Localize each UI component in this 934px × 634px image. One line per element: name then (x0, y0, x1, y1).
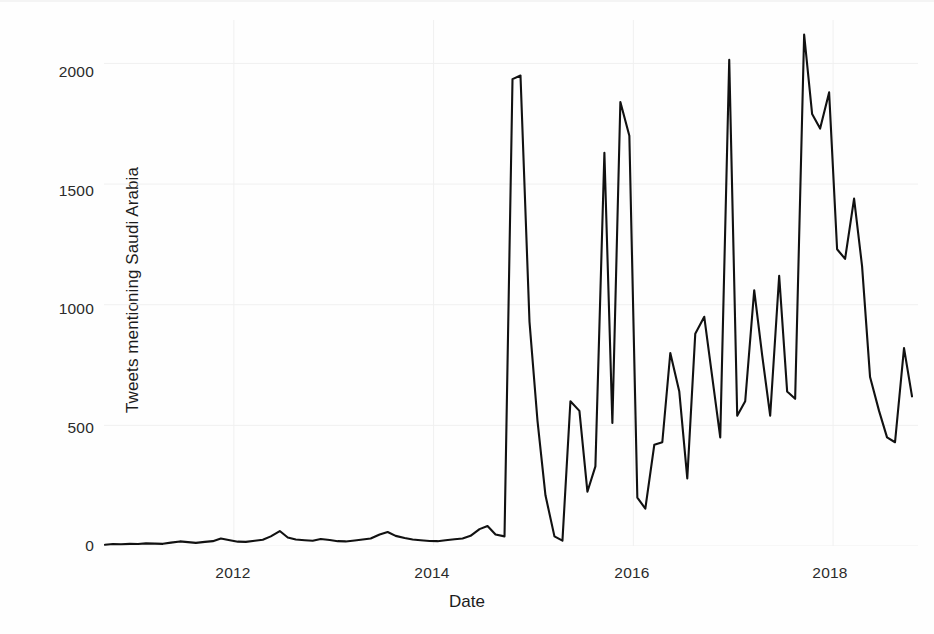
gridlines (104, 20, 918, 546)
chart-svg (104, 20, 918, 546)
y-axis-title-container: Tweets mentioning Saudi Arabia (12, 60, 40, 520)
x-tick-label-2018: 2018 (812, 564, 847, 582)
x-tick-label-2014: 2014 (414, 564, 449, 582)
data-line-group (105, 34, 912, 544)
y-tick-label-1500: 1500 (42, 182, 94, 200)
y-tick-label-500: 500 (42, 419, 94, 437)
series-line-tweets (105, 34, 912, 544)
x-tick-label-2012: 2012 (215, 564, 250, 582)
plot-area (104, 20, 918, 546)
y-tick-label-1000: 1000 (42, 300, 94, 318)
figure-caption-sliver (60, 624, 880, 634)
y-tick-label-0: 0 (42, 537, 94, 555)
x-axis-tick-labels: 2012 2014 2016 2018 (0, 564, 934, 584)
scan-artifact (0, 0, 934, 2)
chart-figure: Tweets mentioning Saudi Arabia 0 500 100… (0, 0, 934, 634)
x-tick-label-2016: 2016 (614, 564, 649, 582)
y-tick-label-2000: 2000 (42, 63, 94, 81)
x-axis-title: Date (0, 592, 934, 612)
